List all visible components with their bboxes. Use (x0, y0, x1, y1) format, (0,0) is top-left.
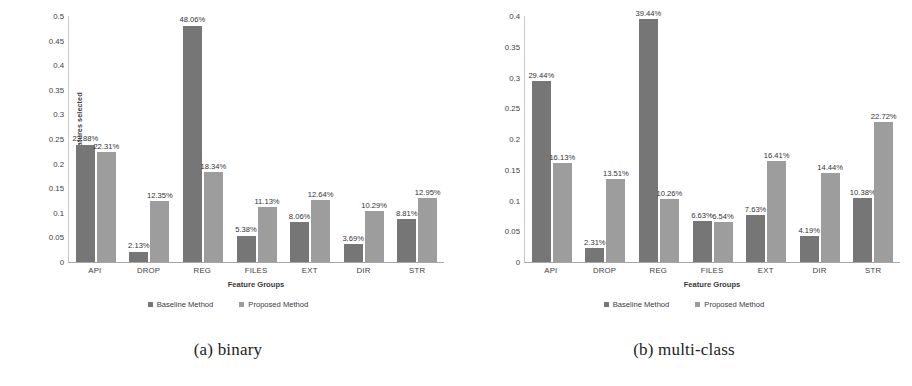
panel-multi-class: Percentage of features selected 00.050.1… (456, 0, 912, 386)
chart-binary: Percentage of features selected 00.050.1… (0, 0, 456, 296)
bar[interactable]: 16.13% (553, 163, 572, 262)
bar-value-label: 22.72% (871, 113, 897, 121)
bar-group: 6.63%6.54% (686, 16, 740, 262)
legend-label-proposed: Proposed Method (704, 300, 764, 309)
bar-slot: 2.31% (585, 16, 604, 262)
bar-slot: 6.63% (693, 16, 712, 262)
bar-group: 4.19%14.44% (793, 16, 847, 262)
x-axis-tick: DROP (578, 266, 632, 275)
x-axis-tick: DIR (337, 266, 391, 275)
bar[interactable]: 10.29% (365, 211, 384, 262)
bar-slot: 12.95% (418, 16, 437, 262)
bar-group: 3.69%10.29% (337, 16, 391, 262)
bar-slot: 22.72% (874, 16, 893, 262)
plot-area: 23.88%22.31%2.13%12.35%48.06%18.34%5.38%… (68, 16, 444, 263)
y-axis-tick: 0.15 (49, 184, 64, 193)
bar-value-label: 48.06% (180, 16, 206, 24)
bar-value-label: 4.19% (798, 227, 820, 235)
bar[interactable]: 10.26% (660, 199, 679, 262)
bar-slot: 18.34% (204, 16, 223, 262)
bar-value-label: 18.34% (201, 163, 227, 171)
bar-value-label: 14.44% (817, 164, 843, 172)
y-axis-tick: 0.1 (53, 208, 64, 217)
bar-slot: 22.31% (97, 16, 116, 262)
bar-value-label: 6.63% (691, 212, 713, 220)
y-axis-tick: 0.4 (53, 61, 64, 70)
bar-group: 8.06%12.64% (283, 16, 337, 262)
bar[interactable]: 29.44% (532, 81, 551, 262)
bar-slot: 14.44% (821, 16, 840, 262)
y-axis-tick: 0.5 (53, 12, 64, 21)
x-axis-tick: API (524, 266, 578, 275)
y-axis-tick: 0.2 (53, 159, 64, 168)
x-axis-tick: REG (631, 266, 685, 275)
bar-slot: 8.06% (290, 16, 309, 262)
panel-caption: (b) multi-class (456, 340, 912, 360)
bar[interactable]: 5.38% (237, 236, 256, 262)
bar[interactable]: 23.88% (76, 145, 95, 262)
bar[interactable]: 2.13% (129, 252, 148, 262)
bar-value-label: 10.26% (657, 190, 683, 198)
bar[interactable]: 6.54% (714, 222, 733, 262)
bar-value-label: 12.95% (415, 189, 441, 197)
bar[interactable]: 48.06% (183, 26, 202, 262)
chart-multi-class: Percentage of features selected 00.050.1… (456, 0, 912, 296)
x-axis-tick: STR (390, 266, 444, 275)
bar-slot: 48.06% (183, 16, 202, 262)
bar-slot: 16.41% (767, 16, 786, 262)
bar[interactable]: 18.34% (204, 172, 223, 262)
bar-slot: 10.38% (853, 16, 872, 262)
y-axis-tick: 0.05 (505, 227, 520, 236)
y-axis-ticks: 00.050.10.150.20.250.30.350.4 (490, 16, 520, 262)
y-axis-tick: 0.15 (505, 165, 520, 174)
x-axis-tick: FILES (229, 266, 283, 275)
y-axis-tick: 0.35 (49, 85, 64, 94)
legend-item-proposed: Proposed Method (239, 300, 308, 309)
y-axis-tick: 0.1 (509, 196, 520, 205)
bar[interactable]: 12.95% (418, 198, 437, 262)
bar-slot: 3.69% (344, 16, 363, 262)
panel-binary: Percentage of features selected 00.050.1… (0, 0, 456, 386)
bar[interactable]: 2.31% (585, 248, 604, 262)
bar-value-label: 6.54% (712, 213, 734, 221)
x-axis-label: Feature Groups (524, 280, 900, 289)
x-axis-tick: FILES (685, 266, 739, 275)
bar-value-label: 16.13% (549, 154, 575, 162)
bar-slot: 23.88% (76, 16, 95, 262)
bar[interactable]: 8.06% (290, 222, 309, 262)
bar[interactable]: 22.72% (874, 122, 893, 262)
bar[interactable]: 11.13% (258, 207, 277, 262)
legend-item-baseline: Baseline Method (148, 300, 214, 309)
bar[interactable]: 22.31% (97, 152, 116, 262)
bar[interactable]: 4.19% (800, 236, 819, 262)
legend-item-baseline: Baseline Method (604, 300, 670, 309)
bar-value-label: 12.64% (308, 191, 334, 199)
y-axis-ticks: 00.050.10.150.20.250.30.350.40.450.5 (34, 16, 64, 262)
x-axis-tick: API (68, 266, 122, 275)
bar[interactable]: 6.63% (693, 221, 712, 262)
bar[interactable]: 14.44% (821, 173, 840, 262)
bar[interactable]: 13.51% (606, 179, 625, 262)
bar[interactable]: 12.35% (150, 201, 169, 262)
y-axis-tick: 0.4 (509, 12, 520, 21)
bar-slot: 10.29% (365, 16, 384, 262)
bar[interactable]: 8.81% (397, 219, 416, 262)
bar[interactable]: 3.69% (344, 244, 363, 262)
bar[interactable]: 39.44% (639, 19, 658, 262)
bar[interactable]: 10.38% (853, 198, 872, 262)
bar-slot: 8.81% (397, 16, 416, 262)
legend-swatch-proposed-icon (239, 302, 244, 307)
bar-group: 7.63%16.41% (739, 16, 793, 262)
chart-legend: Baseline Method Proposed Method (456, 300, 912, 309)
bar-slot: 29.44% (532, 16, 551, 262)
bar-value-label: 22.31% (93, 143, 119, 151)
bar-group: 2.13%12.35% (123, 16, 177, 262)
bar[interactable]: 7.63% (746, 215, 765, 262)
bar-slot: 13.51% (606, 16, 625, 262)
bar-group: 10.38%22.72% (846, 16, 900, 262)
bar[interactable]: 12.64% (311, 200, 330, 262)
y-axis-tick: 0 (60, 258, 64, 267)
bar-slot: 12.64% (311, 16, 330, 262)
bar[interactable]: 16.41% (767, 161, 786, 262)
bar-value-label: 8.06% (289, 213, 311, 221)
